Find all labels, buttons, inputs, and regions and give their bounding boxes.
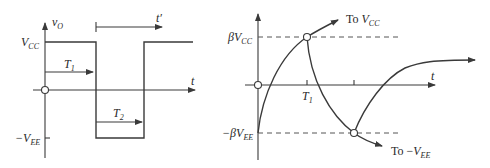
to-minus-vee-label: To −VEE [391,144,430,160]
t-axis-label: t [431,69,435,83]
charging-curve-second-cycle [354,60,475,133]
t2-label: T2 [113,106,124,122]
capacitor-voltage-plot: βVCC −βVEE t T1 To VCC To −VEE [222,12,475,160]
discharging-curve-to-vee [307,37,382,146]
vee-level-label: −VEE [15,131,40,147]
origin-marker [255,82,262,89]
vcc-level-label: VCC [21,35,40,51]
lower-switch-point [351,130,358,137]
to-vcc-label: To VCC [346,12,380,28]
origin-marker [42,87,49,94]
beta-vcc-label: βVCC [227,30,253,46]
beta-vee-label: −βVEE [222,126,253,142]
t1-label: T1 [64,57,75,73]
y-axis-label: vO [52,15,63,31]
t-prime-label: t′ [156,11,162,25]
t1-tick-label: T1 [302,89,313,105]
oscillator-waveform-diagram: vO t t′ VCC −VEE T1 T2 βVCC −βVEE t [0,0,490,168]
t-axis-label: t [191,74,195,88]
upper-switch-point [304,34,311,41]
square-wave-plot: vO t t′ VCC −VEE T1 T2 [15,11,195,158]
